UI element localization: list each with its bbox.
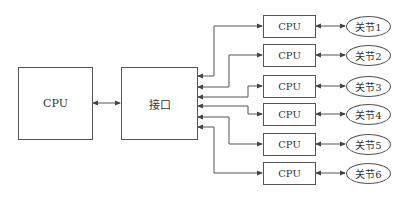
joint-node-1: 关节1: [346, 16, 391, 37]
slave-cpu-box-2: CPU: [263, 44, 316, 67]
slave-cpu-label: CPU: [278, 109, 301, 120]
joint-label: 关节5: [355, 137, 381, 152]
slave-cpu-label: CPU: [278, 168, 301, 179]
joint-node-2: 关节2: [346, 45, 391, 66]
joint-label: 关节6: [355, 166, 381, 181]
slave-cpu-label: CPU: [278, 81, 301, 92]
joint-label: 关节1: [355, 19, 381, 34]
slave-cpu-label: CPU: [278, 139, 301, 150]
slave-cpu-box-5: CPU: [263, 133, 316, 156]
slave-cpu-label: CPU: [278, 21, 301, 32]
slave-cpu-box-3: CPU: [263, 75, 316, 98]
joint-label: 关节3: [355, 79, 381, 94]
joint-node-4: 关节4: [346, 104, 391, 125]
main-cpu-box: CPU: [18, 67, 93, 140]
slave-cpu-box-6: CPU: [263, 162, 316, 185]
main-cpu-label: CPU: [43, 97, 68, 110]
joint-label: 关节4: [355, 107, 381, 122]
slave-cpu-label: CPU: [278, 50, 301, 61]
slave-cpu-box-4: CPU: [263, 103, 316, 126]
joint-node-6: 关节6: [346, 163, 391, 184]
joint-label: 关节2: [355, 48, 381, 63]
slave-cpu-box-1: CPU: [263, 15, 316, 38]
interface-label: 接口: [149, 96, 171, 112]
joint-node-3: 关节3: [346, 76, 391, 97]
interface-box: 接口: [121, 67, 198, 140]
joint-node-5: 关节5: [346, 134, 391, 155]
